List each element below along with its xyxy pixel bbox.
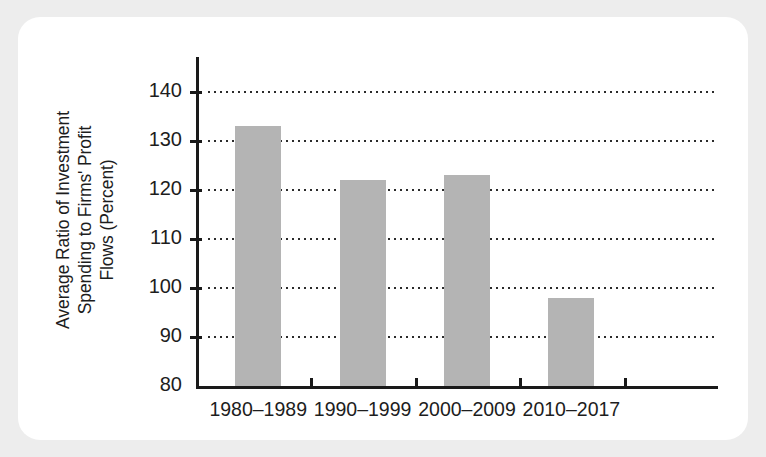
y-tick-label: 140: [149, 79, 182, 102]
plot-area: 1401301201101009080: [196, 57, 718, 389]
x-tick-mark: [415, 378, 418, 389]
y-tick-mark: [190, 189, 202, 192]
y-tick-label: 100: [149, 275, 182, 298]
bar-1980–1989: [235, 126, 281, 386]
y-tick-label: 90: [160, 324, 182, 347]
x-axis-line: [196, 386, 718, 389]
bar-2000–2009: [444, 175, 490, 386]
y-tick-mark: [190, 287, 202, 290]
bar-2010–2017: [548, 298, 594, 386]
y-tick-label: 130: [149, 128, 182, 151]
x-tick-mark: [519, 378, 522, 389]
y-tick-label: 80: [160, 373, 182, 396]
y-axis-title-line-2: Spending to Firms' Profit: [75, 126, 96, 315]
x-tick-mark: [624, 378, 627, 389]
y-tick-label: 110: [150, 226, 182, 249]
y-tick-mark: [190, 91, 202, 94]
x-tick-mark: [310, 378, 313, 389]
y-tick-label: 120: [149, 177, 182, 200]
y-axis-line: [196, 57, 199, 389]
y-tick-mark: [190, 140, 202, 143]
y-axis-title-line-1: Average Ratio of Investment: [53, 111, 74, 329]
gridline-dots: [206, 140, 718, 142]
gridline-dots: [206, 91, 718, 93]
figure-card: Average Ratio of Investment Spending to …: [18, 17, 748, 440]
y-axis-title: Average Ratio of Investment Spending to …: [50, 55, 124, 385]
y-axis-title-line-3: Flows (Percent): [97, 159, 118, 280]
bar-1990–1999: [340, 180, 386, 386]
x-tick-label: 2010–2017: [501, 398, 641, 421]
y-tick-mark: [190, 238, 202, 241]
y-tick-mark: [190, 336, 202, 339]
